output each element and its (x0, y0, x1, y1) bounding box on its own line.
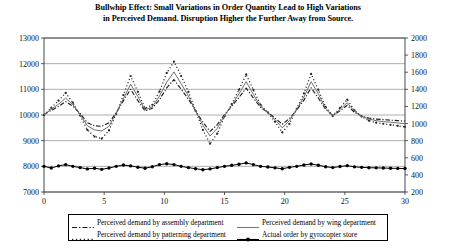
y-axis-tick-label: 8000 (23, 162, 39, 171)
series-point-3 (309, 162, 312, 165)
series-point-3 (382, 166, 385, 169)
legend-item-patterning: Perceived demand by patterning departmen… (72, 228, 237, 240)
series-point-1 (209, 143, 211, 145)
series-point-3 (367, 166, 370, 169)
x-axis-tick-label: 25 (341, 197, 349, 206)
y2-axis-tick-label: 400 (411, 171, 423, 180)
y2-axis-tick-label: 1400 (411, 85, 427, 94)
series-point-3 (42, 165, 45, 168)
y-axis-tick-label: 11000 (19, 85, 39, 94)
series-point-3 (360, 166, 363, 169)
series-point-1 (317, 89, 319, 91)
series-point-3 (259, 165, 262, 168)
legend-item-actual-order: Actual order by gyrocopter store (237, 228, 392, 240)
y2-axis-tick-label: 200 (411, 188, 423, 197)
series-point-1 (122, 94, 124, 96)
series-point-3 (403, 167, 406, 170)
series-point-3 (273, 166, 276, 169)
series-point-1 (310, 73, 312, 75)
series-point-1 (137, 91, 139, 93)
series-line-0 (44, 80, 405, 132)
series-point-3 (158, 163, 161, 166)
legend-item-assembly: Perceived demand by assembly department (72, 216, 237, 228)
series-point-1 (101, 138, 103, 140)
y2-axis-tick-label: 600 (411, 154, 423, 163)
legend-label-actual-order: Actual order by gyrocopter store (262, 230, 357, 239)
series-point-3 (252, 163, 255, 166)
series-point-3 (78, 166, 81, 169)
series-point-1 (93, 135, 95, 137)
x-axis-tick-label: 10 (160, 197, 168, 206)
series-point-3 (295, 165, 298, 168)
series-point-3 (353, 165, 356, 168)
series-point-3 (107, 166, 110, 169)
series-point-1 (375, 122, 377, 124)
series-point-1 (389, 124, 391, 126)
series-point-3 (331, 166, 334, 169)
y2-axis-tick-label: 1200 (411, 102, 427, 111)
chart-root: Bullwhip Effect: Small Variations in Ord… (0, 0, 456, 249)
series-point-1 (216, 132, 218, 134)
y2-axis-tick-label: 1000 (411, 120, 427, 129)
legend-label-patterning: Perceived demand by patterning departmen… (97, 230, 226, 239)
y-axis-tick-label: 12000 (19, 60, 39, 69)
series-point-3 (244, 161, 247, 164)
x-axis-tick-label: 0 (42, 197, 46, 206)
series-point-3 (187, 166, 190, 169)
series-point-3 (338, 165, 341, 168)
series-point-1 (173, 61, 175, 63)
series-point-1 (166, 72, 168, 74)
legend-item-wing: Perceived demand by wing department (237, 216, 392, 228)
x-axis-tick-label: 5 (102, 197, 106, 206)
series-point-1 (108, 129, 110, 131)
series-point-3 (86, 167, 89, 170)
series-point-3 (50, 166, 53, 169)
line-chart-svg: 7000800090001000011000120001300020040060… (0, 0, 456, 249)
series-point-1 (130, 75, 132, 77)
chart-legend: Perceived demand by assembly department … (68, 214, 388, 241)
y2-axis-tick-label: 1800 (411, 51, 427, 60)
series-point-3 (129, 164, 132, 167)
series-point-1 (86, 129, 88, 131)
series-0 (44, 80, 405, 132)
series-point-1 (346, 99, 348, 101)
y-axis-tick-label: 9000 (23, 137, 39, 146)
series-point-1 (202, 129, 204, 131)
series-point-3 (115, 165, 118, 168)
series-point-3 (172, 163, 175, 166)
y-axis-tick-label: 13000 (19, 34, 39, 43)
series-point-3 (151, 165, 154, 168)
series-point-3 (64, 163, 67, 166)
series-point-3 (374, 166, 377, 169)
series-point-3 (288, 166, 291, 169)
legend-label-assembly: Perceived demand by assembly department (97, 218, 223, 227)
series-point-3 (71, 165, 74, 168)
series-point-1 (245, 73, 247, 75)
legend-swatch-solid-marker-icon (237, 230, 259, 239)
series-point-3 (223, 165, 226, 168)
series-point-1 (180, 75, 182, 77)
x-axis-tick-label: 15 (221, 197, 229, 206)
series-point-3 (201, 168, 204, 171)
legend-label-wing: Perceived demand by wing department (262, 218, 376, 227)
series-point-3 (396, 167, 399, 170)
x-axis-tick-label: 20 (281, 197, 289, 206)
series-1 (43, 61, 406, 145)
series-point-3 (317, 164, 320, 167)
series-point-1 (382, 123, 384, 125)
series-point-3 (302, 163, 305, 166)
legend-swatch-dotted-icon (72, 230, 94, 239)
series-point-3 (194, 167, 197, 170)
series-point-3 (165, 162, 168, 165)
y2-axis-tick-label: 2000 (411, 34, 427, 43)
series-point-1 (65, 92, 67, 94)
series-point-1 (288, 123, 290, 125)
y2-axis-tick-label: 800 (411, 137, 423, 146)
series-point-3 (346, 164, 349, 167)
series-point-1 (158, 90, 160, 92)
series-line-1 (44, 62, 405, 144)
series-point-3 (324, 165, 327, 168)
series-point-3 (208, 167, 211, 170)
series-point-3 (93, 167, 96, 170)
series-point-3 (216, 166, 219, 169)
